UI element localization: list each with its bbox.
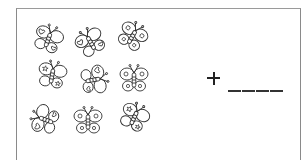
plus-sign: [207, 72, 220, 85]
blank-segment: [256, 90, 269, 92]
butterfly-icon: [31, 21, 66, 55]
butterfly-icon: [117, 98, 154, 134]
butterfly-icon: [74, 107, 102, 134]
butterfly-icon: [36, 58, 68, 89]
blank-segment: [270, 90, 283, 92]
butterfly-icon: [120, 65, 148, 92]
butterfly-group: [0, 0, 307, 160]
butterfly-icon: [71, 23, 108, 60]
butterfly-icon: [80, 64, 111, 96]
butterfly-icon: [114, 17, 151, 54]
answer-blank[interactable]: [228, 90, 283, 92]
butterfly-icon: [27, 102, 61, 137]
blank-segment: [242, 90, 255, 92]
plus-vertical-stroke: [213, 72, 215, 85]
blank-segment: [228, 90, 241, 92]
